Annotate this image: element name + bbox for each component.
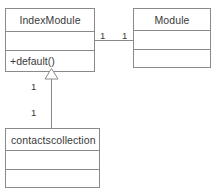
multiplicity-association-source: 1: [100, 31, 105, 41]
class-operation-indexmodule-default: +default(): [6, 50, 94, 71]
multiplicity-generalization-source: 1: [31, 108, 36, 118]
class-operations-contactscollection: [6, 169, 99, 187]
class-attributes-indexmodule: [6, 31, 94, 50]
class-name-contactscollection: contactscollection: [6, 129, 99, 150]
class-box-indexmodule[interactable]: IndexModule +default(): [5, 8, 95, 72]
multiplicity-association-target: 1: [122, 31, 127, 41]
class-operations-module: [134, 49, 210, 67]
class-box-contactscollection[interactable]: contactscollection: [5, 128, 100, 188]
uml-class-diagram-canvas: IndexModule +default() Module contactsco…: [0, 0, 217, 192]
class-attributes-module: [134, 30, 210, 49]
class-name-indexmodule: IndexModule: [6, 9, 94, 31]
class-attributes-contactscollection: [6, 150, 99, 169]
class-box-module[interactable]: Module: [133, 8, 211, 68]
class-name-module: Module: [134, 9, 210, 30]
multiplicity-generalization-target: 1: [31, 82, 36, 92]
